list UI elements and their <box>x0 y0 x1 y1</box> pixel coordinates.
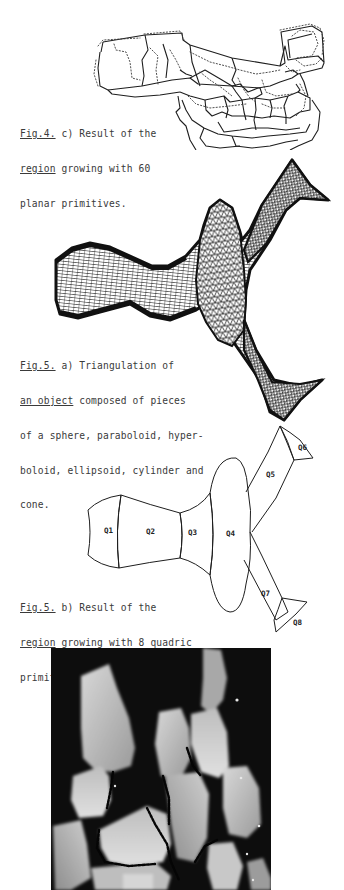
label-q2: Q2 <box>146 527 155 536</box>
label-q7: Q7 <box>261 589 270 598</box>
range-image-render <box>51 648 271 890</box>
range-image-photo <box>51 648 271 890</box>
region-q8 <box>274 598 307 632</box>
figure-ref: Fig.4. <box>20 128 56 139</box>
mesh-ellipsoid <box>196 200 246 346</box>
region-q6 <box>280 426 313 460</box>
figure-5a-triangulated-mesh: Fig.5. a) Triangulation of an object com… <box>0 150 344 430</box>
figure-4c-planar-regions: Fig.4. c) Result of the region growing w… <box>0 0 344 150</box>
label-q5: Q5 <box>266 470 275 479</box>
label-q6: Q6 <box>298 443 308 452</box>
region-q5 <box>246 426 294 532</box>
mesh-upper-arm <box>244 160 328 262</box>
label-q1: Q1 <box>104 526 114 535</box>
label-q8: Q8 <box>293 618 303 627</box>
label-q3: Q3 <box>188 528 198 537</box>
mesh-lower-arm <box>244 320 322 420</box>
figure-5b-quadric-regions: Q1 Q2 Q3 Q4 Q5 Q6 Q7 Q8 Fig.5. b) Result… <box>0 420 344 650</box>
label-q4: Q4 <box>226 529 236 538</box>
